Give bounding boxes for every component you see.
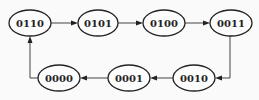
state-label: 0000 (45, 73, 73, 84)
state-node-0110: 0110 (9, 10, 51, 36)
arrowhead-icon (80, 76, 87, 81)
edge-0100-to-0011 (185, 21, 210, 26)
arrowhead-icon (203, 21, 210, 26)
state-node-0101: 0101 (78, 10, 118, 36)
nodes: 0110 0101 0100 0011 0010 0001 0000 (9, 10, 252, 91)
arrowhead-icon (136, 21, 143, 26)
arrowhead-icon (215, 76, 222, 81)
state-node-0000: 0000 (38, 65, 80, 91)
state-label: 0101 (84, 18, 112, 29)
edge-0001-to-0000 (80, 76, 108, 81)
state-label: 0110 (16, 18, 44, 29)
state-label: 0011 (217, 18, 245, 29)
state-label: 0010 (180, 73, 208, 84)
state-cycle-diagram: 0110 0101 0100 0011 0010 0001 0000 (0, 0, 259, 100)
state-node-0100: 0100 (143, 10, 185, 36)
edge-0010-to-0001 (150, 76, 173, 81)
state-node-0001: 0001 (108, 65, 150, 91)
arrowhead-icon (71, 21, 78, 26)
edge-0101-to-0100 (118, 21, 143, 26)
arrowhead-icon (28, 36, 33, 43)
state-label: 0001 (115, 73, 143, 84)
edge-0000-to-0110 (28, 36, 39, 78)
edge-0011-to-0010 (215, 36, 230, 81)
state-node-0011: 0011 (210, 10, 252, 36)
edge-0110-to-0101 (51, 21, 78, 26)
state-node-0010: 0010 (173, 65, 215, 91)
arrowhead-icon (150, 76, 157, 81)
state-label: 0100 (150, 18, 178, 29)
